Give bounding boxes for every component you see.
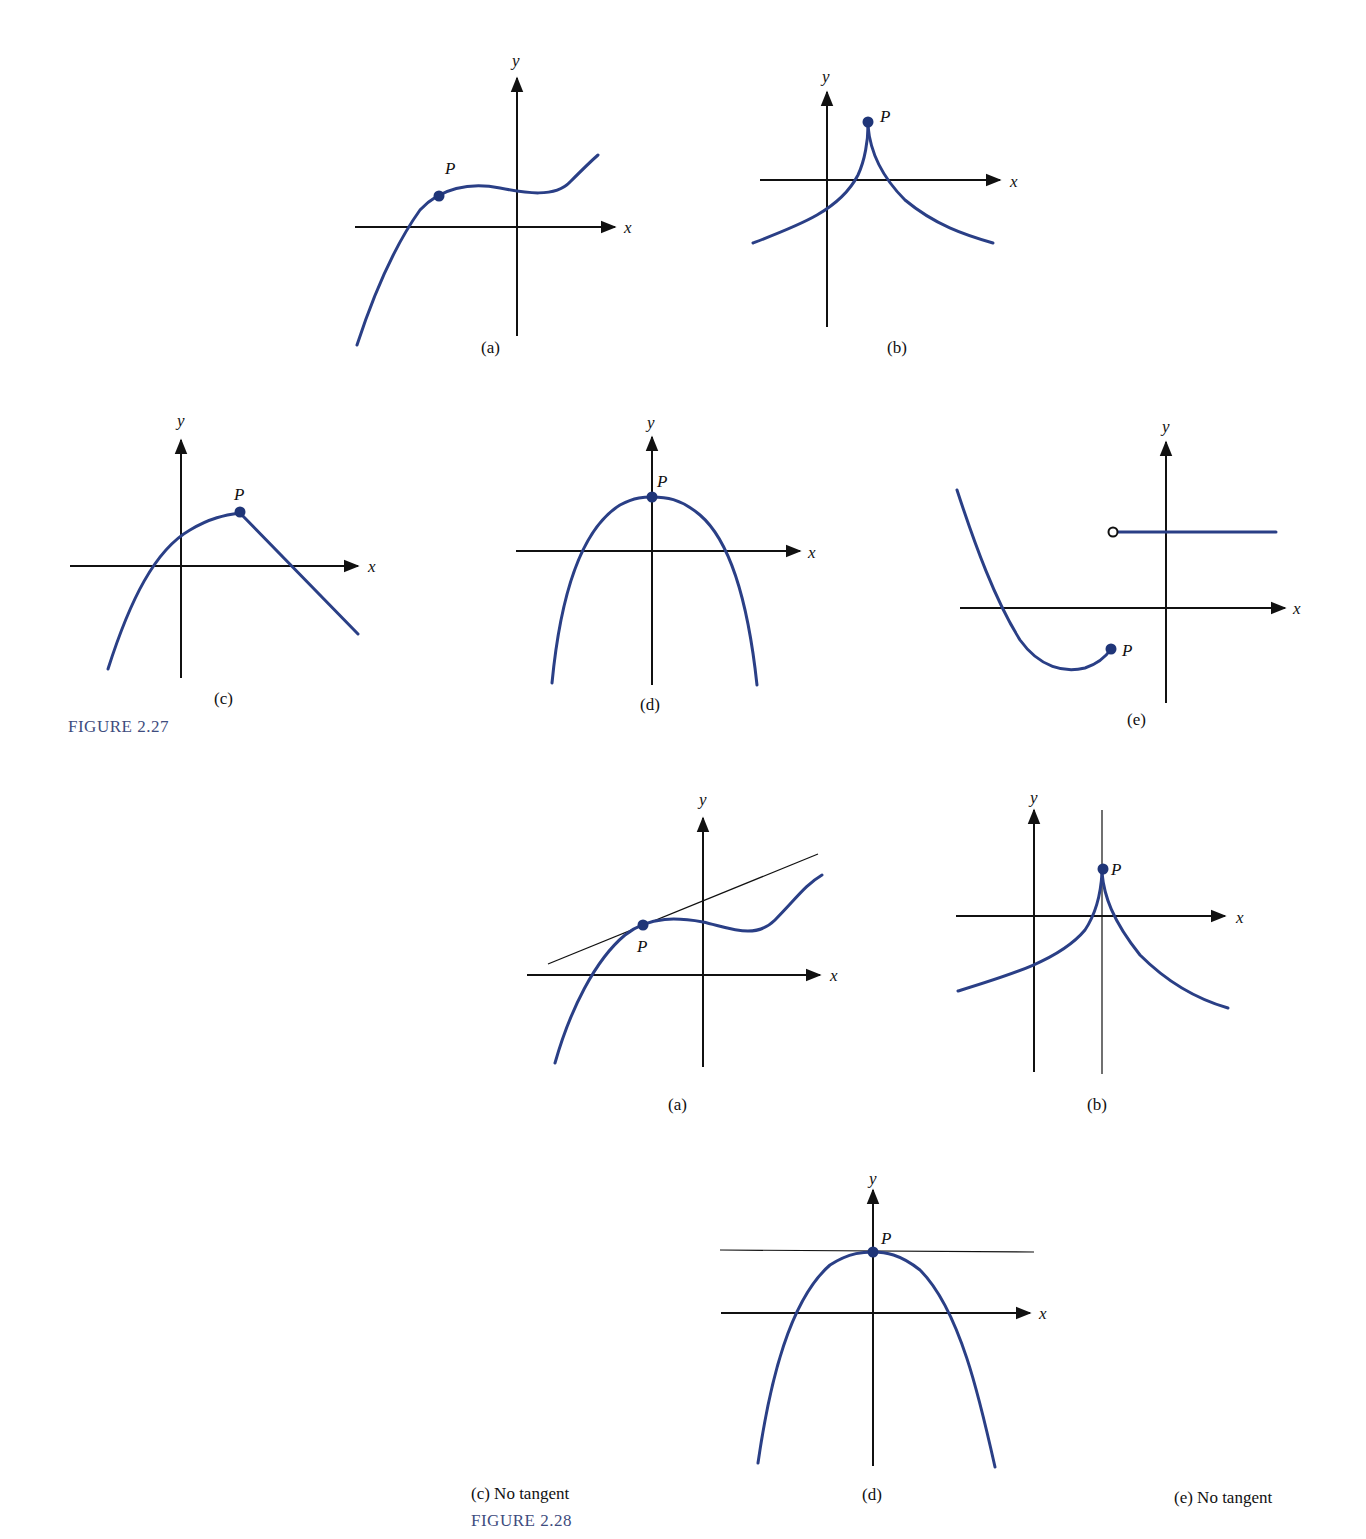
- curve: [958, 873, 1102, 991]
- x-axis-label: x: [368, 558, 376, 575]
- x-axis-label: x: [1039, 1305, 1047, 1322]
- point-p: [647, 492, 658, 503]
- fig228-a-graph: [527, 818, 822, 1067]
- curve: [240, 513, 358, 634]
- figure-2-27-title: FIGURE 2.27: [68, 718, 169, 735]
- fig227-e-graph: [957, 442, 1285, 703]
- point-label: P: [657, 473, 667, 490]
- curve: [552, 497, 757, 685]
- x-axis-label: x: [624, 219, 632, 236]
- x-axis-label: x: [1293, 600, 1301, 617]
- point-p: [868, 1247, 879, 1258]
- x-axis-label: x: [830, 967, 838, 984]
- y-axis-label: y: [699, 791, 707, 808]
- y-axis-label: y: [512, 52, 520, 69]
- curve: [1102, 873, 1228, 1008]
- point-p: [638, 920, 649, 931]
- x-axis-label: x: [808, 544, 816, 561]
- panel-caption: (b): [1087, 1096, 1107, 1113]
- curve: [555, 875, 822, 1063]
- open-circle: [1109, 528, 1118, 537]
- fig227-a-graph: [355, 78, 615, 345]
- figures-canvas: [0, 0, 1366, 1539]
- fig227-c-graph: [70, 440, 358, 678]
- fig228-d-graph: [720, 1190, 1034, 1467]
- curve: [108, 513, 240, 669]
- tangent-line: [548, 854, 818, 964]
- fig227-b-graph: [753, 92, 1000, 327]
- point-label: P: [1111, 861, 1121, 878]
- point-label: P: [881, 1230, 891, 1247]
- point-p: [1098, 864, 1109, 875]
- panel-caption: (d): [640, 696, 660, 713]
- curve: [753, 126, 868, 243]
- y-axis-label: y: [822, 68, 830, 85]
- curve: [957, 490, 1111, 670]
- panel-caption-no-tangent: (c) No tangent: [471, 1485, 569, 1502]
- panel-caption: (a): [668, 1096, 687, 1113]
- point-label: P: [234, 486, 244, 503]
- panel-caption: (c): [214, 690, 233, 707]
- panel-caption: (e): [1127, 711, 1146, 728]
- x-axis-label: x: [1010, 173, 1018, 190]
- point-p: [863, 117, 874, 128]
- point-label: P: [1122, 642, 1132, 659]
- y-axis-label: y: [1162, 418, 1170, 435]
- point-label: P: [880, 108, 890, 125]
- fig228-b-graph: [956, 810, 1228, 1074]
- point-p: [434, 191, 445, 202]
- panel-caption: (b): [887, 339, 907, 356]
- y-axis-label: y: [177, 412, 185, 429]
- figure-2-28-title: FIGURE 2.28: [471, 1512, 572, 1529]
- point-p: [1106, 644, 1117, 655]
- panel-caption: (d): [862, 1486, 882, 1503]
- y-axis-label: y: [869, 1170, 877, 1187]
- y-axis-label: y: [1030, 789, 1038, 806]
- point-label: P: [445, 160, 455, 177]
- panel-caption: (a): [481, 339, 500, 356]
- curve: [357, 155, 598, 345]
- curve: [868, 126, 993, 243]
- point-label: P: [637, 938, 647, 955]
- panel-caption-no-tangent: (e) No tangent: [1174, 1489, 1272, 1506]
- y-axis-label: y: [647, 414, 655, 431]
- curve: [758, 1252, 995, 1467]
- x-axis-label: x: [1236, 909, 1244, 926]
- point-p: [235, 507, 246, 518]
